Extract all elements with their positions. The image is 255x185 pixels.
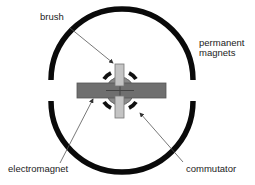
dc-motor-diagram: brush permanent magnets electromagnet co…: [0, 0, 255, 185]
brush-top: [115, 64, 124, 86]
commutator-label: commutator: [186, 164, 236, 174]
brush-arrow: [70, 28, 113, 63]
permanent-magnets-label: permanent magnets: [199, 38, 244, 58]
electromagnet-label: electromagnet: [8, 164, 68, 174]
commutator-arrow: [140, 113, 183, 162]
brush-bottom: [115, 96, 124, 118]
permanent-magnets-label-line2: magnets: [199, 47, 235, 58]
brush-label: brush: [40, 12, 64, 22]
